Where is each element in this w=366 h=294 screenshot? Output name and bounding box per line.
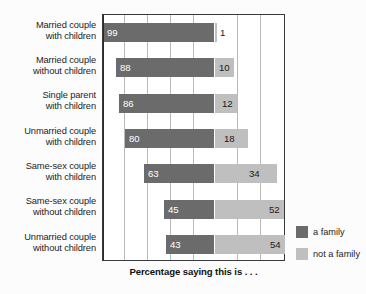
- bar-a-family[interactable]: [116, 58, 214, 77]
- chart-legend: a family not a family: [296, 222, 366, 266]
- category-label-line2: with children: [0, 101, 96, 112]
- chart-row: 45 52: [103, 192, 284, 227]
- category-label-line2: with children: [0, 172, 96, 183]
- category-label-line2: without children: [0, 66, 96, 77]
- category-label-line2: with children: [0, 31, 96, 42]
- legend-swatch-not-a-family: [296, 248, 308, 260]
- category-label: Married couple without children: [0, 55, 96, 77]
- category-label-line1: Unmarried couple: [0, 126, 96, 137]
- chart-row: 86 12: [103, 86, 284, 121]
- bar-not-a-family[interactable]: [215, 23, 217, 42]
- value-label-not-a-family: 18: [224, 130, 235, 147]
- category-label-line1: Single parent: [0, 90, 96, 101]
- value-label-a-family: 45: [168, 201, 179, 218]
- chart-figure: Married couple with children Married cou…: [0, 0, 366, 294]
- value-label-not-a-family: 12: [222, 95, 233, 112]
- category-axis-labels: Married couple with children Married cou…: [0, 14, 96, 261]
- category-label: Single parent with children: [0, 90, 96, 112]
- category-label: Unmarried couple with children: [0, 126, 96, 148]
- value-label-a-family: 86: [123, 95, 134, 112]
- value-label-a-family: 63: [148, 165, 159, 182]
- legend-item-a-family[interactable]: a family: [296, 222, 366, 241]
- chart-row: 80 18: [103, 121, 284, 156]
- x-axis-title: Percentage saying this is . . .: [102, 266, 285, 277]
- category-label: Unmarried couple without children: [0, 232, 96, 254]
- legend-swatch-a-family: [296, 226, 308, 238]
- value-label-not-a-family: 34: [249, 165, 260, 182]
- bar-a-family[interactable]: [103, 23, 214, 42]
- legend-label: a family: [313, 227, 345, 237]
- category-label: Married couple with children: [0, 20, 96, 42]
- chart-row: 43 54: [103, 227, 284, 262]
- value-label-a-family: 88: [120, 59, 131, 76]
- category-label-line1: Same-sex couple: [0, 161, 96, 172]
- chart-row: 88 10: [103, 50, 284, 85]
- category-label-line1: Married couple: [0, 20, 96, 31]
- value-label-a-family: 43: [170, 236, 181, 253]
- zero-axis-line: [103, 15, 104, 260]
- category-label-line2: without children: [0, 207, 96, 218]
- category-label-line1: Married couple: [0, 55, 96, 66]
- category-label-line1: Same-sex couple: [0, 196, 96, 207]
- value-label-a-family: 99: [107, 24, 118, 41]
- chart-row: 63 34: [103, 156, 284, 191]
- value-label-not-a-family: 54: [270, 236, 281, 253]
- value-label-not-a-family: 1: [220, 24, 225, 41]
- legend-item-not-a-family[interactable]: not a family: [296, 244, 366, 263]
- category-label-line2: without children: [0, 243, 96, 254]
- chart-row: 99 1: [103, 15, 284, 50]
- value-label-a-family: 80: [129, 130, 140, 147]
- category-label-line2: with children: [0, 137, 96, 148]
- legend-label: not a family: [313, 249, 360, 259]
- value-label-not-a-family: 52: [269, 201, 280, 218]
- value-label-not-a-family: 10: [219, 59, 230, 76]
- bar-not-a-family[interactable]: [215, 164, 277, 183]
- category-label: Same-sex couple with children: [0, 161, 96, 183]
- category-label-line1: Unmarried couple: [0, 232, 96, 243]
- category-label: Same-sex couple without children: [0, 196, 96, 218]
- plot-area: 99 1 88 10 86 12 80 18 63: [102, 14, 285, 261]
